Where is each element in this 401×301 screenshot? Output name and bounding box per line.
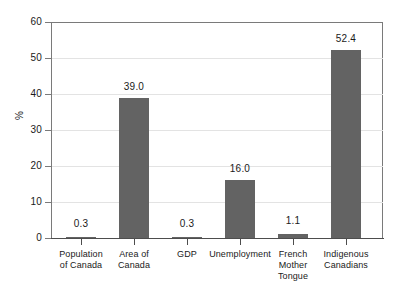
y-tick-label-0: 0 [12,233,42,243]
y-tick-label-60: 60 [12,17,42,27]
y-tick-mark-10 [45,202,51,203]
category-label-indigenous-canadians: Indigenous Canadians [316,249,376,271]
y-tick-mark-0 [45,238,51,239]
bar-chart: 60 50 40 30 20 10 0 % 0.3 39.0 0.3 16.0 … [0,0,401,301]
bar-value-unemployment: 16.0 [215,163,265,174]
y-tick-label-50: 50 [12,53,42,63]
category-label-area-of-canada: Area of Canada [104,249,164,271]
y-tick-mark-60 [45,22,51,23]
bar-value-french-mother-tongue: 1.1 [268,215,318,226]
x-tick-mark-unemployment [240,239,241,245]
y-tick-label-30: 30 [12,125,42,135]
x-axis-line [51,238,384,239]
x-tick-mark-french-mother-tongue [293,239,294,245]
y-tick-mark-50 [45,58,51,59]
y-tick-mark-40 [45,94,51,95]
x-tick-mark-area-of-canada [134,239,135,245]
x-tick-mark-indigenous-canadians [346,239,347,245]
x-tick-mark-population-of-canada [81,239,82,245]
y-tick-label-20: 20 [12,161,42,171]
category-label-french-mother-tongue: French Mother Tongue [263,249,323,282]
bar-population-of-canada [66,237,96,238]
bar-area-of-canada [119,98,149,238]
bar-value-gdp: 0.3 [162,218,212,229]
y-tick-mark-20 [45,166,51,167]
bar-value-population-of-canada: 0.3 [56,218,106,229]
category-label-population-of-canada: Population of Canada [51,249,111,271]
bar-french-mother-tongue [278,234,308,238]
y-tick-label-10: 10 [12,197,42,207]
bar-indigenous-canadians [331,50,361,238]
bar-value-area-of-canada: 39.0 [109,81,159,92]
bar-gdp [172,237,202,238]
y-tick-mark-30 [45,130,51,131]
x-tick-mark-gdp [187,239,188,245]
bar-value-indigenous-canadians: 52.4 [321,33,371,44]
bar-unemployment [225,180,255,238]
y-tick-label-40: 40 [12,89,42,99]
y-axis-title: % [14,111,25,120]
